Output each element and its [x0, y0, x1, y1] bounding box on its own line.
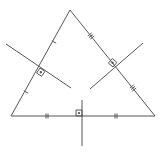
perpendicular-bisector-right — [90, 43, 143, 89]
triangle — [11, 10, 155, 116]
perpendicular-bisector-left — [6, 44, 71, 88]
right-angle-dot-base — [78, 112, 79, 113]
diagram-canvas — [0, 0, 166, 156]
